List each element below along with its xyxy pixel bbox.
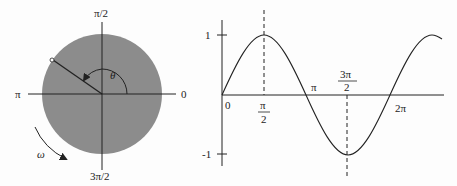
x-label-three-half-pi-num: 3π	[340, 68, 352, 80]
x-label-three-half-pi-den: 2	[344, 81, 350, 93]
x-label-pi: π	[311, 81, 317, 93]
point-marker-icon	[50, 58, 54, 62]
omega-label: ω	[37, 148, 45, 160]
sine-graph: 1 -1 0 π 2 π 3π 2 2π	[202, 10, 444, 176]
angle-theta-label: θ	[110, 69, 116, 81]
y-tick-label-neg1: -1	[202, 148, 211, 160]
figure-svg: θ 0 π/2 π 3π/2 ω 1 -1 0	[0, 0, 457, 186]
diagram-canvas: θ 0 π/2 π 3π/2 ω 1 -1 0	[0, 0, 457, 186]
x-label-half-pi-den: 2	[261, 113, 267, 125]
y-tick-label-1: 1	[205, 29, 211, 41]
axis-label-0: 0	[181, 88, 187, 100]
axis-label-pi: π	[15, 88, 21, 100]
axis-label-three-half-pi: 3π/2	[90, 170, 110, 182]
x-label-0: 0	[225, 99, 231, 111]
axis-label-half-pi: π/2	[94, 7, 108, 19]
phasor-diagram: θ 0 π/2 π 3π/2 ω	[15, 7, 187, 182]
x-label-two-pi: 2π	[395, 102, 407, 114]
x-label-half-pi-num: π	[260, 99, 266, 111]
